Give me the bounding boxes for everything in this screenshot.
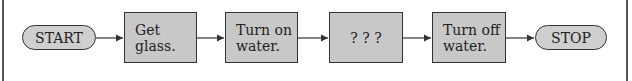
start-label: START bbox=[35, 30, 83, 46]
step-turn-off-water: Turn off water. bbox=[432, 12, 506, 63]
step-label: Turn off water. bbox=[443, 22, 500, 54]
stop-label: STOP bbox=[551, 30, 591, 46]
step-label: Get glass. bbox=[135, 22, 176, 54]
step-label: ? ? ? bbox=[350, 30, 381, 46]
step-turn-on-water: Turn on water. bbox=[225, 12, 298, 63]
step-label: Turn on water. bbox=[236, 22, 292, 54]
stop-terminal: STOP bbox=[535, 25, 607, 50]
start-terminal: START bbox=[22, 25, 96, 50]
step-get-glass: Get glass. bbox=[124, 12, 197, 63]
step-unknown: ? ? ? bbox=[329, 12, 403, 63]
